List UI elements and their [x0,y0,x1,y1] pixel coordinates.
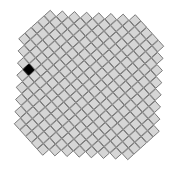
lattice-grid-figure [0,0,179,170]
lattice-cells-layer [14,10,163,159]
